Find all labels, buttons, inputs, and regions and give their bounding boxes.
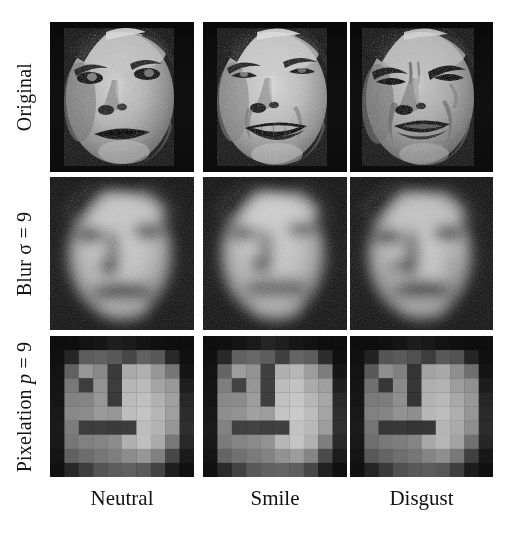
- cell-pixelation-smile: [203, 336, 347, 477]
- face-blur-neutral: [50, 177, 194, 330]
- col-label-smile-text: Smile: [250, 486, 299, 511]
- col-label-neutral: Neutral: [50, 486, 194, 518]
- face-original-smile: [203, 22, 347, 172]
- row-label-blur-text: Blur σ = 9: [13, 211, 35, 296]
- pixelgrid-disgust-grain: [350, 336, 493, 477]
- face-blur-smile: [203, 177, 347, 330]
- col-label-disgust-text: Disgust: [389, 486, 453, 511]
- col-label-neutral-text: Neutral: [91, 486, 154, 511]
- col-label-smile: Smile: [203, 486, 347, 518]
- row-label-blur: Blur σ = 9: [0, 177, 48, 330]
- face-original-neutral: [50, 22, 194, 172]
- cell-blur-neutral: [50, 177, 194, 330]
- cell-blur-disgust: [350, 177, 493, 330]
- pixelgrid-neutral-grain: [50, 336, 194, 477]
- cell-original-smile: [203, 22, 347, 172]
- col-label-disgust: Disgust: [350, 486, 493, 518]
- cell-pixelation-neutral: [50, 336, 194, 477]
- cell-original-disgust: [350, 22, 493, 172]
- row-label-pixelation-value: 9: [13, 341, 35, 351]
- face-original-disgust: [350, 22, 493, 172]
- row-label-pixelation-symbol: p: [13, 373, 35, 383]
- row-label-original: Original: [0, 22, 48, 172]
- row-label-pixelation-prefix: Pixelation: [13, 383, 35, 471]
- row-label-pixelation: Pixelation p = 9: [0, 336, 48, 477]
- row-label-pixelation-equals: =: [13, 351, 35, 373]
- cell-pixelation-disgust: [350, 336, 493, 477]
- face-blur-disgust: [350, 177, 493, 330]
- cell-blur-smile: [203, 177, 347, 330]
- figure-container: Original Blur σ = 9 Pixelation p = 9 Neu…: [0, 0, 515, 536]
- pixelgrid-smile-grain: [203, 336, 347, 477]
- row-label-original-text: Original: [13, 63, 35, 131]
- cell-original-neutral: [50, 22, 194, 172]
